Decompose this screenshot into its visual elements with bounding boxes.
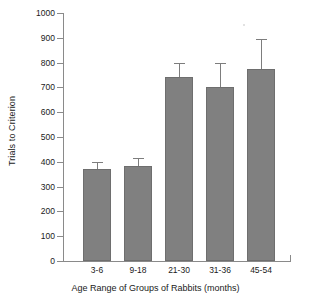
error-bar-cap <box>133 158 144 159</box>
x-axis-line <box>63 261 291 262</box>
y-axis-tick <box>57 211 63 212</box>
bar <box>124 166 152 261</box>
y-axis-tick-label: 600 <box>27 108 55 117</box>
y-axis-tick <box>57 187 63 188</box>
y-axis-tick-label: 700 <box>27 83 55 92</box>
bar <box>165 77 193 261</box>
x-axis-end-tick <box>290 255 291 262</box>
y-axis-tick-label: 100 <box>27 232 55 241</box>
x-axis-tick-label: 45-54 <box>238 265 284 275</box>
error-bar-cap <box>174 63 185 64</box>
y-axis-title: Trials to Criterion <box>2 0 22 262</box>
error-bar-stem <box>179 63 180 78</box>
x-axis-tick-label: 9-18 <box>115 265 161 275</box>
y-axis-tick <box>57 261 63 262</box>
error-bar-stem <box>220 63 221 88</box>
y-axis-tick <box>57 38 63 39</box>
y-axis-tick-label: 1000 <box>27 9 55 18</box>
x-axis-tick-label: 31-36 <box>197 265 243 275</box>
x-axis-tick-label: 3-6 <box>74 265 120 275</box>
x-axis-title: Age Range of Groups of Rabbits (months) <box>0 283 311 293</box>
y-axis-tick-label: 900 <box>27 34 55 43</box>
y-axis-tick <box>57 112 63 113</box>
y-axis-tick-label: 300 <box>27 183 55 192</box>
error-bar-stem <box>261 39 262 69</box>
y-axis-tick-label: 500 <box>27 133 55 142</box>
y-axis-line <box>63 13 64 262</box>
y-axis-tick-label: 200 <box>27 207 55 216</box>
y-axis-tick-label: 400 <box>27 158 55 167</box>
bar <box>206 87 234 261</box>
y-axis-tick <box>57 63 63 64</box>
bar <box>83 169 111 261</box>
y-axis-tick <box>57 162 63 163</box>
y-axis-title-text: Trials to Criterion <box>7 96 17 166</box>
y-axis-tick <box>57 236 63 237</box>
error-bar-stem <box>138 158 139 166</box>
error-bar-cap <box>215 63 226 64</box>
y-axis-tick <box>57 137 63 138</box>
y-axis-tick-labels: 10009008007006005004003002001000 <box>22 0 55 304</box>
bar-chart: Trials to Criterion 10009008007006005004… <box>0 0 311 304</box>
y-axis-tick-label: 0 <box>27 257 55 266</box>
bar <box>247 69 275 261</box>
artifact-speck <box>243 24 245 26</box>
y-axis-tick <box>57 87 63 88</box>
error-bar-cap <box>256 39 267 40</box>
y-axis-tick-label: 800 <box>27 59 55 68</box>
error-bar-stem <box>97 162 98 169</box>
error-bar-cap <box>92 162 103 163</box>
x-axis-tick-label: 21-30 <box>156 265 202 275</box>
y-axis-tick <box>57 13 63 14</box>
